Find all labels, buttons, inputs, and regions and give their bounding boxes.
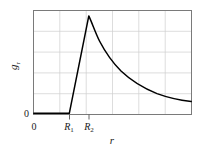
gravitational-field-plot: gr 0 0 R1 R2 r — [0, 0, 200, 149]
x-tick-label-r1-base: R — [63, 121, 70, 132]
x-tick-label-r2-subscript: 2 — [90, 126, 94, 134]
y-tick-label-zero: 0 — [24, 108, 29, 119]
x-tick-label-r2-base: R — [83, 121, 90, 132]
x-axis-label: r — [110, 134, 115, 146]
x-tick-label-zero: 0 — [32, 121, 37, 132]
x-tick-label-r1-subscript: 1 — [70, 126, 74, 134]
